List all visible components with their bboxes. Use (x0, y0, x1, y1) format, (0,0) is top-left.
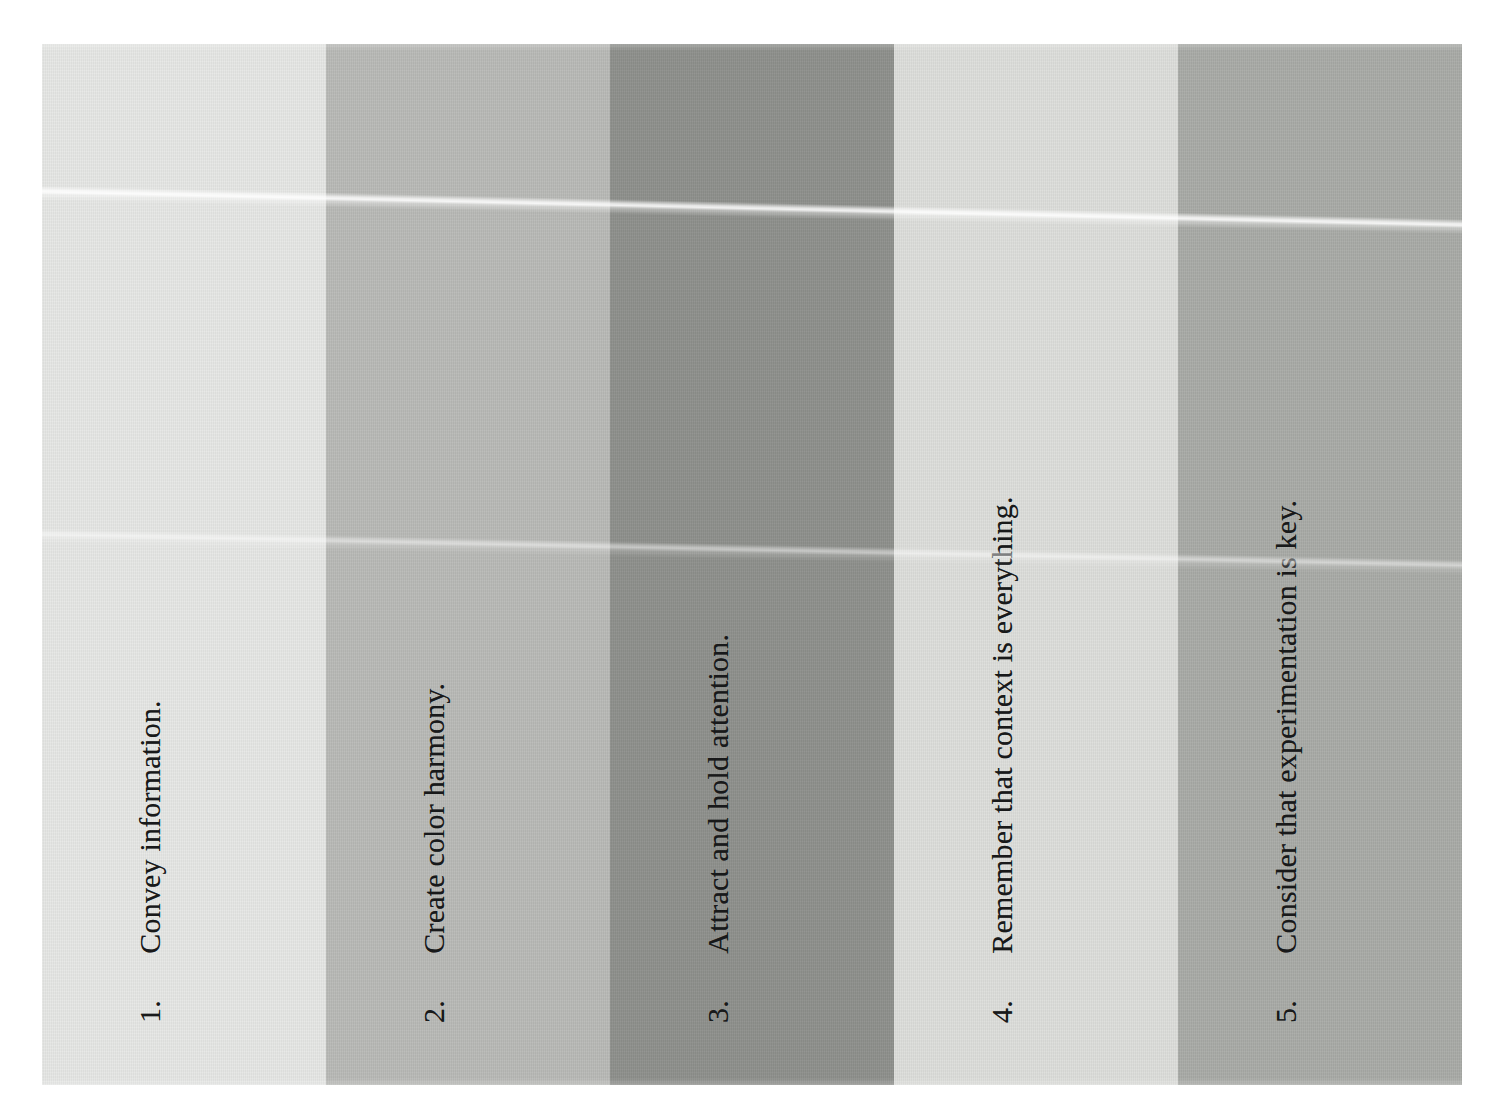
swatch-column-1[interactable]: 1.Convey information. (42, 44, 326, 1085)
list-label-5: Consider that experimentation is key. (1269, 500, 1303, 954)
list-number-5: 5. (1269, 1000, 1303, 1023)
swatch-column-3[interactable]: 3.Attract and hold attention. (610, 44, 894, 1085)
color-swatch-band: 1.Convey information. 2.Create color har… (42, 44, 1462, 1085)
swatch-column-2[interactable]: 2.Create color harmony. (326, 44, 610, 1085)
list-number-4: 4. (985, 1000, 1019, 1023)
swatch-column-4[interactable]: 4.Remember that context is everything. (894, 44, 1178, 1085)
list-label-1: Convey information. (133, 700, 167, 953)
list-label-2: Create color harmony. (417, 683, 451, 954)
swatch-column-5[interactable]: 5.Consider that experimentation is key. (1178, 44, 1462, 1085)
list-number-2: 2. (417, 1000, 451, 1023)
swatch-caption-2: 2.Create color harmony. (417, 683, 451, 1023)
list-number-3: 3. (701, 1000, 735, 1023)
page-canvas: 1.Convey information. 2.Create color har… (0, 0, 1504, 1116)
swatch-caption-4: 4.Remember that context is everything. (985, 496, 1019, 1023)
swatch-caption-1: 1.Convey information. (133, 700, 167, 1023)
swatch-caption-3: 3.Attract and hold attention. (701, 634, 735, 1023)
list-number-1: 1. (133, 1000, 167, 1023)
swatch-caption-5: 5.Consider that experimentation is key. (1269, 500, 1303, 1023)
list-label-4: Remember that context is everything. (985, 496, 1019, 953)
list-label-3: Attract and hold attention. (701, 634, 735, 954)
